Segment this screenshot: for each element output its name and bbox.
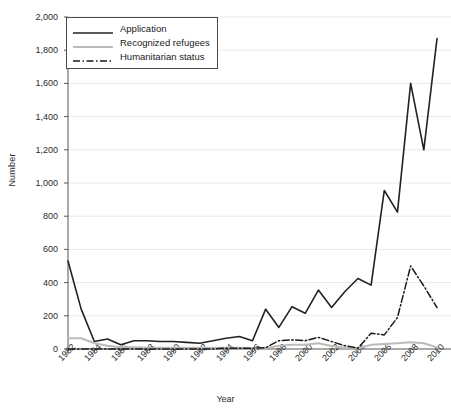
dash-dot-line-swatch	[72, 52, 114, 62]
legend-item[interactable]: Recognized refugees	[72, 36, 210, 50]
legend-item[interactable]: Application	[72, 22, 210, 36]
legend-item[interactable]: Humanitarian status	[72, 50, 210, 64]
chart-legend: ApplicationRecognized refugeesHumanitari…	[66, 17, 218, 69]
series-line-application	[68, 39, 437, 345]
legend-item-label: Humanitarian status	[120, 50, 204, 64]
legend-item-label: Recognized refugees	[120, 36, 210, 50]
solid-line-swatch	[72, 24, 114, 34]
line-chart-figure: Number Year 02004006008001,0001,2001,400…	[0, 0, 451, 413]
light-solid-line-swatch	[72, 38, 114, 48]
series-line-humanitarian-status	[68, 266, 437, 349]
legend-item-label: Application	[120, 22, 166, 36]
